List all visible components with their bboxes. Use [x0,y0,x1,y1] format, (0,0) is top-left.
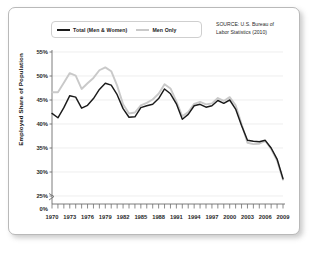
y-tick-label-0pct: 0% [28,206,48,212]
legend-label-total: Total (Men & Women) [73,27,127,33]
x-tick-marks-group [52,204,283,209]
axis-break-zigzag [49,194,54,201]
axes-group [50,50,286,204]
y-axis-break-marker [49,194,54,201]
series-line-men-only [52,67,283,179]
y-tick-label-50pct: 50% [28,73,48,79]
y-tick-label-45pct: 45% [28,97,48,103]
chart-figure: Total (Men & Women) Men Only SOURCE: U.S… [0,0,316,256]
y-tick-label-40pct: 40% [28,121,48,127]
gridlines-group [52,52,283,196]
legend-swatch-total-icon [57,29,70,31]
y-tick-label-35pct: 35% [28,145,48,151]
legend-item-men-only: Men Only [136,27,176,33]
y-tick-label-25pct: 25% [28,193,48,199]
plot-wrapper: Total (Men & Women) Men Only SOURCE: U.S… [0,0,316,256]
source-note-line-1: SOURCE: U.S. Bureau of [216,21,294,29]
source-note-line-2: Labor Statistics (2010) [216,29,294,37]
y-axis-title: Employed Share of Population [17,40,24,160]
y-tick-label-30pct: 30% [28,169,48,175]
y-tick-label-55pct: 55% [28,49,48,55]
x-tick-label-2009: 2009 [271,214,295,220]
series-line-total-men-women [52,83,283,179]
source-note: SOURCE: U.S. Bureau of Labor Statistics … [216,21,294,37]
chart-legend: Total (Men & Women) Men Only [51,21,202,38]
legend-item-total: Total (Men & Women) [57,27,127,33]
legend-label-men-only: Men Only [152,27,176,33]
legend-swatch-men-icon [136,29,149,31]
series-paths-group [52,67,283,179]
